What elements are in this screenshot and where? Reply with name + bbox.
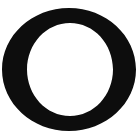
glyph-canvas: O — [0, 0, 140, 138]
letter-o-glyph — [0, 0, 140, 138]
